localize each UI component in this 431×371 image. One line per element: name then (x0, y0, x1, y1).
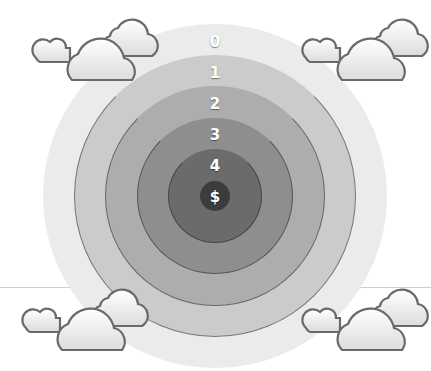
cloud-icon-bottom-right (298, 288, 430, 356)
ring-label-4: 4 (195, 157, 235, 175)
cloud-icon-top-right (298, 18, 430, 86)
ring-label-0: 0 (195, 33, 235, 51)
ring-label-3: 3 (195, 126, 235, 144)
ring-label-dollar: $ (195, 188, 235, 206)
cloud-icon-top-left (28, 18, 160, 86)
ring-label-2: 2 (195, 95, 235, 113)
cloud-icon-bottom-left (18, 288, 150, 356)
ring-label-1: 1 (195, 64, 235, 82)
